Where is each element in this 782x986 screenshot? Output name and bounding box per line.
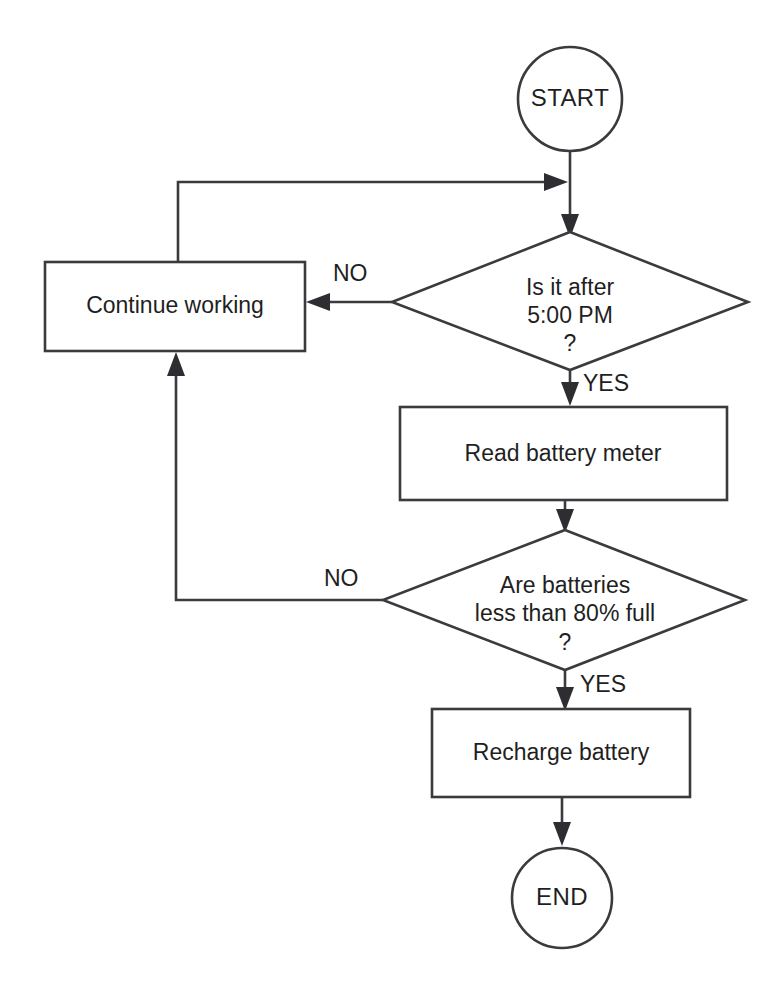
decision-battery-line3: ? (559, 629, 572, 655)
recharge-label: Recharge battery (473, 739, 650, 765)
edge-decision-time-yes (561, 370, 579, 406)
edge-read-meter-to-decision-battery (556, 500, 574, 533)
node-end[interactable]: END (512, 848, 612, 948)
edge-decision-time-no (306, 293, 392, 311)
edge-label-battery-yes: YES (580, 671, 626, 697)
read-meter-label: Read battery meter (465, 440, 662, 466)
node-decision-battery[interactable]: Are batteries less than 80% full ? (383, 530, 745, 670)
decision-battery-line1: Are batteries (500, 572, 630, 598)
edge-decision-battery-no (167, 352, 383, 600)
arrowhead-icon (306, 293, 330, 311)
edge-label-battery-no: NO (324, 565, 359, 591)
node-recharge[interactable]: Recharge battery (432, 709, 690, 797)
arrowhead-icon (556, 687, 574, 711)
flowchart-canvas: START Is it after 5:00 PM ? Continue wor… (0, 0, 782, 986)
edge-label-time-yes: YES (583, 370, 629, 396)
decision-time-line3: ? (564, 330, 577, 356)
node-read-meter[interactable]: Read battery meter (400, 407, 727, 500)
decision-time-line1: Is it after (526, 274, 615, 300)
end-label: END (536, 883, 588, 910)
flowchart-diagram: START Is it after 5:00 PM ? Continue wor… (0, 0, 782, 986)
edge-line (178, 182, 556, 262)
arrowhead-icon (561, 382, 579, 406)
decision-battery-line2: less than 80% full (475, 600, 655, 626)
arrowhead-icon (544, 173, 568, 191)
arrowhead-icon (167, 352, 185, 376)
edge-decision-battery-yes (556, 670, 574, 711)
node-continue-working[interactable]: Continue working (45, 262, 305, 351)
continue-working-label: Continue working (86, 292, 264, 318)
edge-start-to-decision-time (561, 151, 579, 238)
node-decision-time[interactable]: Is it after 5:00 PM ? (392, 232, 748, 370)
edge-recharge-to-end (553, 797, 571, 846)
start-label: START (531, 84, 609, 111)
node-start[interactable]: START (518, 47, 622, 151)
edge-label-time-no: NO (333, 260, 368, 286)
arrowhead-icon (553, 822, 571, 846)
edge-continue-to-decision-time (178, 173, 568, 262)
decision-time-line2: 5:00 PM (527, 302, 613, 328)
